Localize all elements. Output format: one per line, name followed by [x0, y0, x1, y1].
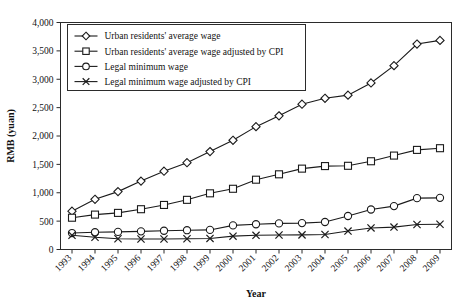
y-tick-label: 3,500 [32, 46, 54, 56]
marker-diamond [160, 167, 168, 175]
marker-circle [252, 221, 259, 228]
x-tick-label: 1993 [53, 253, 74, 274]
marker-circle [275, 220, 282, 227]
marker-square [92, 211, 99, 218]
marker-diamond [298, 100, 306, 108]
x-tick-label: 2001 [237, 253, 258, 274]
marker-square [437, 145, 444, 152]
y-tick-label: 3,000 [32, 75, 54, 85]
y-tick-label: 2,000 [32, 131, 54, 141]
marker-circle [367, 206, 374, 213]
x-tick-label: 2004 [306, 253, 327, 274]
x-tick-label: 1999 [191, 253, 212, 274]
marker-square [276, 171, 283, 178]
x-axis-title: Year [246, 288, 267, 299]
marker-circle [229, 222, 236, 229]
marker-circle [114, 228, 121, 235]
marker-circle [160, 227, 167, 234]
marker-diamond [367, 79, 375, 87]
marker-diamond [183, 159, 191, 167]
marker-square [345, 162, 352, 169]
x-tick-label: 2008 [398, 253, 419, 274]
marker-diamond [321, 94, 329, 102]
x-tick-label: 1994 [76, 253, 97, 274]
marker-circle [436, 194, 443, 201]
x-tick-label: 2007 [375, 253, 396, 274]
marker-square [253, 176, 260, 183]
x-tick-label: 2002 [260, 253, 281, 274]
line-chart: 05001,0001,5002,0002,5003,0003,5004,000R… [0, 0, 463, 307]
y-tick-label: 4,000 [32, 18, 54, 28]
x-tick-label: 1997 [145, 253, 166, 274]
marker-square [207, 190, 214, 197]
legend-item-label: Urban residents' average wage adjusted b… [105, 47, 284, 57]
series-2 [69, 145, 444, 222]
marker-square [115, 209, 122, 216]
marker-circle [344, 212, 351, 219]
marker-circle [137, 228, 144, 235]
marker-diamond [114, 188, 122, 196]
marker-circle [413, 195, 420, 202]
legend-item-label: Legal minimum wage adjusted by CPI [105, 77, 251, 87]
marker-diamond [344, 91, 352, 99]
legend-item-label: Urban residents' average wage [105, 31, 221, 41]
marker-diamond [436, 36, 444, 44]
marker-circle [321, 218, 328, 225]
marker-circle [206, 226, 213, 233]
y-axis: 05001,0001,5002,0002,5003,0003,5004,000 [32, 18, 60, 255]
marker-diamond [206, 148, 214, 156]
marker-square [83, 48, 89, 54]
legend-item-label: Legal minimum wage [105, 62, 188, 72]
marker-square [230, 185, 237, 192]
y-tick-label: 1,500 [32, 160, 54, 170]
marker-circle [183, 227, 190, 234]
marker-square [414, 146, 421, 153]
x-tick-label: 2009 [421, 253, 442, 274]
legend: Urban residents' average wageUrban resid… [68, 25, 306, 91]
y-tick-label: 1,000 [32, 188, 54, 198]
y-tick-label: 0 [49, 245, 54, 255]
marker-square [391, 152, 398, 159]
y-tick-label: 500 [39, 217, 54, 227]
marker-square [161, 201, 168, 208]
marker-diamond [229, 136, 237, 144]
marker-square [138, 206, 145, 213]
marker-circle [298, 220, 305, 227]
x-tick-label: 1995 [99, 253, 120, 274]
y-axis-title: RMB (yuan) [5, 109, 17, 163]
chart-canvas: 05001,0001,5002,0002,5003,0003,5004,000R… [0, 0, 463, 307]
marker-circle [83, 63, 90, 70]
x-axis: 1993199419951996199719981999200020012002… [53, 250, 442, 274]
marker-square [299, 165, 306, 172]
x-tick-label: 2005 [329, 253, 350, 274]
marker-square [184, 196, 191, 203]
marker-diamond [275, 112, 283, 120]
marker-diamond [91, 195, 99, 203]
y-tick-label: 2,500 [32, 103, 54, 113]
marker-circle [390, 202, 397, 209]
x-tick-label: 2003 [283, 253, 304, 274]
marker-diamond [252, 123, 260, 131]
legend-item[interactable]: Urban residents' average wage adjusted b… [75, 47, 284, 57]
marker-square [69, 214, 76, 221]
x-tick-label: 1998 [168, 253, 189, 274]
x-tick-label: 1996 [122, 253, 143, 274]
marker-square [322, 163, 329, 170]
series-3 [68, 194, 443, 236]
marker-square [368, 158, 375, 165]
x-tick-label: 2000 [214, 253, 235, 274]
marker-diamond [137, 177, 145, 185]
x-tick-label: 2006 [352, 253, 373, 274]
